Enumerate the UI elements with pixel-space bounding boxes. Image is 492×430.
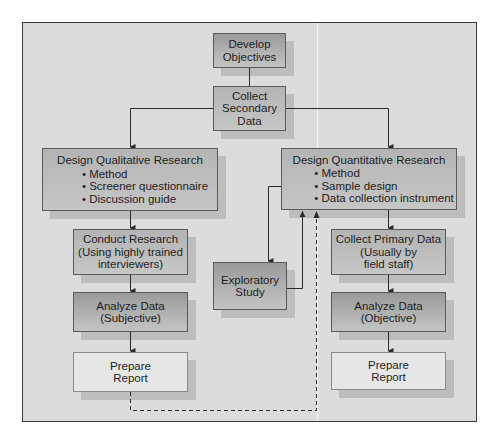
- node-label: Conduct Research: [83, 233, 178, 246]
- node-label: (Subjective): [100, 312, 161, 325]
- bullet-item: • Sample design: [314, 180, 454, 193]
- bullet-item: • Discussion guide: [82, 193, 208, 206]
- node-label: Objectives: [223, 51, 277, 64]
- node-collect-secondary-data: Collect Secondary Data: [213, 86, 286, 131]
- node-label: interviewers): [98, 258, 163, 271]
- node-exploratory-study: Exploratory Study: [213, 262, 287, 310]
- node-label: Secondary: [222, 102, 277, 115]
- node-collect-primary-data: Collect Primary Data (Usually by field s…: [331, 229, 446, 275]
- bullet-item: • Screener questionnaire: [82, 180, 208, 193]
- node-prepare-report-right: Prepare Report: [331, 352, 446, 390]
- node-label: Report: [113, 372, 148, 385]
- bullet-item: • Method: [82, 168, 208, 181]
- bullet-item: • Method: [314, 167, 454, 180]
- node-develop-objectives: Develop Objectives: [213, 33, 286, 68]
- node-design-quantitative-research: Design Quantitative Research • Method • …: [281, 148, 457, 210]
- bullet-item: • Data collection instrument: [314, 192, 454, 205]
- node-label: Develop: [228, 38, 270, 51]
- node-conduct-research: Conduct Research (Using highly trained i…: [73, 229, 188, 275]
- node-label: Prepare: [110, 360, 151, 373]
- node-analyze-data-objective: Analyze Data (Objective): [331, 292, 446, 332]
- node-analyze-data-subjective: Analyze Data (Subjective): [73, 292, 188, 332]
- node-label: Prepare: [368, 359, 409, 372]
- node-design-qualitative-research: Design Qualitative Research • Method • S…: [42, 148, 218, 211]
- node-title: Design Quantitative Research: [284, 154, 454, 167]
- node-label: Collect Primary Data: [336, 233, 441, 246]
- node-label: (Usually by: [360, 246, 417, 259]
- node-label: Collect: [232, 90, 267, 103]
- node-label: Analyze Data: [96, 300, 164, 313]
- node-label: Report: [371, 371, 406, 384]
- node-label: (Objective): [361, 312, 417, 325]
- node-label: Data: [237, 115, 261, 128]
- node-label: (Using highly trained: [78, 246, 183, 259]
- node-label: Exploratory: [221, 274, 279, 287]
- node-title: Design Qualitative Research: [52, 154, 208, 167]
- node-label: Study: [235, 286, 264, 299]
- node-label: field staff): [364, 258, 414, 271]
- node-label: Analyze Data: [354, 300, 422, 313]
- node-prepare-report-left: Prepare Report: [73, 352, 188, 392]
